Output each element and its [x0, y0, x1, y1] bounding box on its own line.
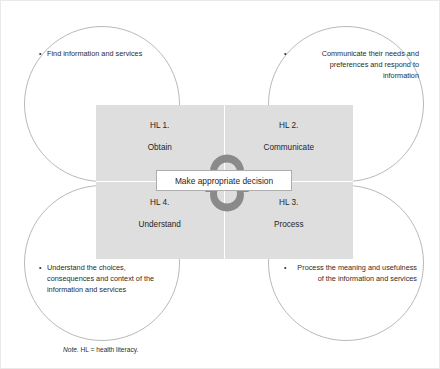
bullet-dot-icon: •: [284, 262, 292, 273]
lobe-text-top-left-label: Find information and services: [47, 48, 159, 59]
lobe-text-top-right: • Communicate their needs and preference…: [284, 48, 419, 82]
figure-note-text: HL = health literacy.: [79, 346, 139, 353]
make-appropriate-decision-box: Make appropriate decision: [156, 170, 292, 191]
quadrant-hl1-name: Obtain: [148, 142, 172, 154]
bullet-dot-icon: •: [284, 48, 292, 59]
make-appropriate-decision-label: Make appropriate decision: [175, 176, 273, 186]
figure-note-lead: Note.: [63, 346, 79, 353]
lobe-text-bottom-left-label: Understand the choices, consequences and…: [47, 262, 171, 296]
lobe-text-top-left: • Find information and services: [39, 48, 159, 59]
health-literacy-cycle-figure: • Find information and services • Commun…: [0, 0, 440, 369]
quadrant-hl3-name: Process: [274, 219, 304, 231]
quadrant-hl3-process: HL 3. Process: [225, 182, 354, 259]
lobe-text-bottom-right-label: Process the meaning and usefulness of th…: [292, 262, 417, 284]
bullet-dot-icon: •: [39, 262, 47, 273]
lobe-text-top-right-label: Communicate their needs and preferences …: [292, 48, 419, 82]
quadrant-hl4-number: HL 4.: [150, 197, 169, 209]
quadrant-hl4-understand: HL 4. Understand: [96, 182, 225, 259]
lobe-text-bottom-right: • Process the meaning and usefulness of …: [284, 262, 417, 284]
quadrant-hl2-number: HL 2.: [279, 120, 298, 132]
quadrant-hl2-name: Communicate: [263, 142, 314, 154]
quadrant-hl4-name: Understand: [139, 219, 181, 231]
quadrant-hl1-number: HL 1.: [150, 120, 169, 132]
lobe-text-bottom-left: • Understand the choices, consequences a…: [39, 262, 171, 296]
figure-note: Note. HL = health literacy.: [63, 346, 138, 353]
bullet-dot-icon: •: [39, 48, 47, 59]
quadrant-hl3-number: HL 3.: [279, 197, 298, 209]
